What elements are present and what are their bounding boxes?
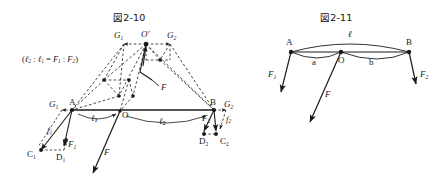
fig11-span-label-b: b <box>369 58 374 67</box>
fig11-span-label-a: a <box>312 58 316 67</box>
fig11-point-label-B: B <box>406 38 412 47</box>
force-label-F2: F2 <box>202 114 210 124</box>
point-label-O-prime: O′ <box>141 30 149 39</box>
force-triangle-A <box>38 110 72 150</box>
figure-2-11-drawing <box>281 44 416 122</box>
force-label-F-center: F <box>104 148 110 157</box>
ratio-formula: (ℓ2 : ℓ1 = F1 : F2) <box>22 55 78 65</box>
formula-ratio1: : <box>31 54 38 64</box>
fig11-point-label-A: A <box>286 38 293 47</box>
force-label-F1: F1 <box>68 140 76 150</box>
span-label-l1: ℓ1 <box>91 114 97 124</box>
point-label-G2-low: G2 <box>224 100 233 110</box>
construction-rays-to-supports <box>72 44 214 111</box>
point-label-B: B <box>210 98 216 107</box>
figure-2-10-drawing <box>0 0 436 184</box>
figure-canvas: 図2-10 図2-11 (ℓ2 : ℓ1 = F1 : F2) G1 O′ G2… <box>0 0 436 184</box>
fig11-force-label-F1: F1 <box>268 70 276 80</box>
point-label-G1-top: G1 <box>114 31 123 41</box>
force-label-f2: f2 <box>226 115 231 125</box>
fig11-force-label-F2: F2 <box>420 70 428 80</box>
formula-close: ) <box>75 54 78 64</box>
point-label-G1-low: G1 <box>49 100 58 110</box>
point-label-C2: C2 <box>220 137 229 147</box>
figure-2-11-title: 図2-11 <box>320 13 353 23</box>
point-label-A: A <box>69 98 76 107</box>
point-label-O: O <box>122 111 129 120</box>
force-label-f1: f1 <box>47 126 52 136</box>
fig11-point-label-O: O <box>338 56 345 65</box>
fig11-span-label-l: ℓ <box>348 30 352 39</box>
span-label-l2: ℓ2 <box>159 117 165 127</box>
point-label-D2: D2 <box>199 137 208 147</box>
formula-equals: = <box>44 54 53 64</box>
figure-2-10-title: 図2-10 <box>113 13 146 23</box>
point-label-C1: C1 <box>27 150 36 160</box>
fig11-force-label-F: F <box>325 90 331 99</box>
force-label-F-upper: F <box>161 83 167 92</box>
point-label-D1: D1 <box>56 153 65 163</box>
point-label-G2-top: G2 <box>167 31 176 41</box>
